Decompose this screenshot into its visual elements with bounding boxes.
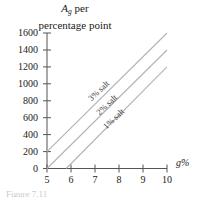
y-tick-label-1600: 1600 — [8, 28, 38, 38]
x-tick-label-5: 5 — [37, 175, 57, 185]
y-tick-label-0: 0 — [8, 164, 38, 174]
figure-caption: Figure 7.11 — [6, 189, 47, 197]
x-tick-label-10: 10 — [157, 175, 177, 185]
y-tick-label-1000: 1000 — [8, 79, 38, 89]
x-axis-label: g% — [176, 157, 189, 168]
x-tick-label-6: 6 — [61, 175, 81, 185]
y-tick-label-1200: 1200 — [8, 62, 38, 72]
y-tick-label-600: 600 — [8, 113, 38, 123]
x-tick-label-9: 9 — [133, 175, 153, 185]
y-tick-label-200: 200 — [8, 147, 38, 157]
series-line-3pct — [47, 33, 167, 152]
x-tick-label-7: 7 — [85, 175, 105, 185]
y-tick-label-1400: 1400 — [8, 45, 38, 55]
figure-container: Ag per percentage point — [0, 0, 205, 198]
y-tick-label-400: 400 — [8, 130, 38, 140]
y-tick-label-800: 800 — [8, 96, 38, 106]
x-tick-label-8: 8 — [109, 175, 129, 185]
